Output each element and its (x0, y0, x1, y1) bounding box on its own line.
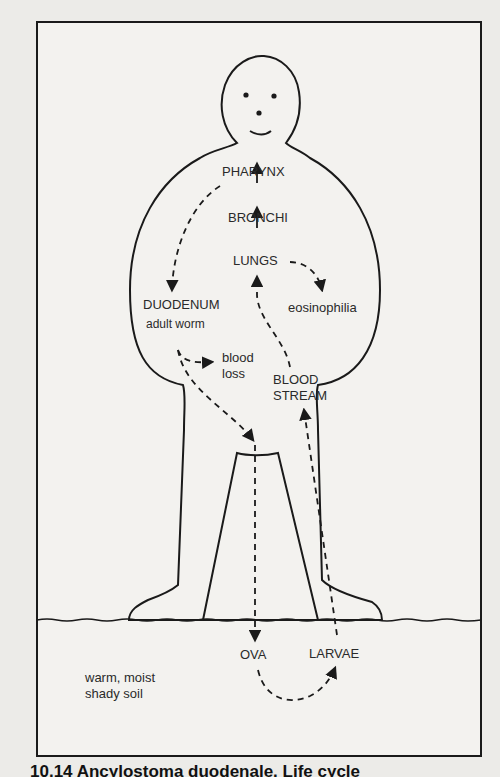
label-soil-line2: shady soil (85, 686, 143, 701)
label-lungs: LUNGS (233, 253, 278, 268)
label-adult-worm: adult worm (146, 317, 205, 332)
label-blood-stream-line1: BLOOD (273, 372, 319, 387)
label-ova: OVA (240, 647, 267, 662)
label-duodenum: DUODENUM (143, 297, 220, 312)
figure-caption: 10.14 Ancylostoma duodenale. Life cycle (30, 760, 360, 777)
figure: PHARYNX BRONCHI LUNGS eosinophilia DUODE… (0, 0, 500, 777)
label-blood-loss-line2: loss (222, 366, 245, 381)
label-larvae: LARVAE (309, 646, 359, 661)
label-pharynx: PHARYNX (222, 164, 285, 179)
figure-frame (37, 22, 481, 756)
label-eosinophilia: eosinophilia (288, 300, 357, 315)
label-bronchi: BRONCHI (228, 210, 288, 225)
label-blood-loss-line1: blood (222, 350, 254, 365)
label-soil-line1: warm, moist (85, 670, 155, 685)
label-blood-stream-line2: STREAM (273, 388, 327, 403)
